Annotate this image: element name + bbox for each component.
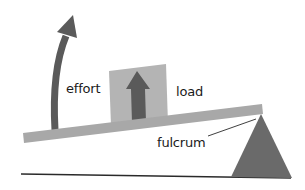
fulcrum-leader-line xyxy=(208,119,256,136)
lever-diagram: effort load fulcrum xyxy=(0,0,305,190)
load-label: load xyxy=(176,84,203,99)
fulcrum-triangle xyxy=(231,114,292,178)
effort-label: effort xyxy=(66,81,100,96)
fulcrum-label: fulcrum xyxy=(157,135,205,150)
effort-arrow-shaft xyxy=(54,36,66,130)
effort-arrow-head-icon xyxy=(57,15,77,38)
